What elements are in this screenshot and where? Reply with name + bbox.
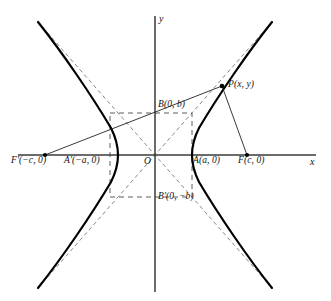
label-upper-b: B(0, b) [158,100,185,110]
label-left-vertex: A'(−a, 0) [64,156,100,166]
label-left-focus: F'(−c, 0) [11,156,46,166]
label-right-focus: F(c, 0) [238,156,265,166]
label-origin: O [144,157,151,167]
focal-radius-right [222,86,247,155]
label-x-axis: x [310,157,315,167]
figure-canvas [0,0,331,301]
point-p-dot [220,84,225,89]
focal-radius-left [45,86,222,155]
hyperbola-figure: F'(−c, 0) A'(−a, 0) O A(a, 0) F(c, 0) B(… [0,0,331,301]
label-y-axis: y [159,14,164,24]
label-lower-b: B'(0, −b) [158,192,194,202]
label-point-p: P(x, y) [228,80,254,90]
label-right-vertex: A(a, 0) [193,156,220,166]
